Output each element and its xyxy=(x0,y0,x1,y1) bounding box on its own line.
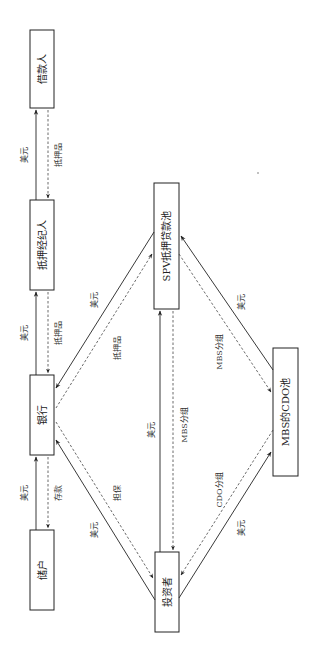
edge-label: 美元 xyxy=(19,325,29,341)
node-borrower-label: 借款人 xyxy=(36,54,48,84)
edge-label: 存款 xyxy=(53,485,63,501)
edge-label: 抵押品 xyxy=(53,321,63,345)
node-bank-label: 银行 xyxy=(36,405,48,425)
mortgage-flow-diagram: 借款人 抵押经纪人 银行 储户 SPV抵押贷款池 MBS的CDO池 投资者 美元… xyxy=(0,0,309,655)
edge-label: 美元 xyxy=(146,422,156,438)
node-spv: SPV抵押贷款池 xyxy=(154,183,179,309)
node-broker-label: 抵押经纪人 xyxy=(36,220,48,270)
node-investor-label: 投资者 xyxy=(161,577,173,607)
edge-spv-bank-usd xyxy=(56,232,154,388)
node-borrower: 借款人 xyxy=(30,30,54,108)
node-depositor: 储户 xyxy=(30,530,54,610)
edge-investor-cdo-usd xyxy=(179,452,271,598)
edge-label: MBS分组 xyxy=(214,334,224,370)
node-depositor-label: 储户 xyxy=(36,560,48,580)
edge-label: 美元 xyxy=(19,485,29,501)
edge-cdo-spv-usd xyxy=(181,236,273,370)
edge-label: MBS分组 xyxy=(179,407,189,443)
edge-label: 美元 xyxy=(89,292,99,308)
node-spv-label: SPV抵押贷款池 xyxy=(160,211,172,282)
edge-investor-bank-usd xyxy=(56,440,155,600)
edge-label: 美元 xyxy=(19,147,29,163)
edge-label: 担保 xyxy=(112,485,122,501)
edge-bank-spv-collateral xyxy=(56,254,152,408)
node-cdo-label: MBS的CDO池 xyxy=(279,378,291,446)
node-broker: 抵押经纪人 xyxy=(30,200,54,290)
node-bank: 银行 xyxy=(30,375,54,455)
edge-label: 美元 xyxy=(89,522,99,538)
edge-label: 美元 xyxy=(236,520,246,536)
edge-label: 抵押品 xyxy=(53,143,63,167)
edge-spv-cdo-mbs xyxy=(179,254,271,392)
edge-label: 抵押品 xyxy=(112,336,122,360)
edge-label: 美元 xyxy=(236,294,246,310)
edge-cdo-investor-cdo xyxy=(181,430,273,575)
edge-bank-investor-guarantee xyxy=(56,422,153,578)
edge-label: CDO分组 xyxy=(214,472,224,507)
node-investor: 投资者 xyxy=(155,552,179,632)
stray-dot xyxy=(257,172,258,173)
node-cdo: MBS的CDO池 xyxy=(273,348,298,476)
